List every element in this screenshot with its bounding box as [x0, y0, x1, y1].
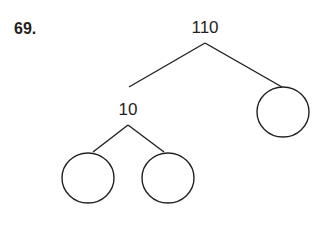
- root-value: 110: [191, 18, 218, 37]
- answer-circle-bottom-right[interactable]: [142, 153, 194, 203]
- answer-circle-right[interactable]: [257, 87, 309, 137]
- mid-value: 10: [119, 100, 138, 119]
- branch-mid-left: [93, 125, 128, 152]
- answer-circle-bottom-left[interactable]: [62, 153, 114, 203]
- number-bond-diagram: 110 10: [0, 0, 327, 232]
- branch-root-right: [205, 43, 282, 87]
- branch-root-left: [129, 43, 205, 87]
- branch-mid-right: [128, 125, 164, 152]
